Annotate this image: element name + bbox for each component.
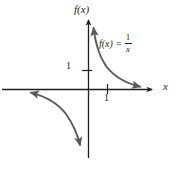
equation-equals-sign: = (116, 39, 122, 49)
y-axis-label: f(x) (74, 4, 89, 15)
x-axis-tick-label-1: 1 (104, 93, 109, 103)
graph-plot-area (0, 0, 176, 170)
fraction-denominator: x (125, 44, 131, 54)
y-axis-tick-label-1: 1 (66, 61, 71, 71)
figure-canvas: f(x) x 1 1 f(x) = 1 x (0, 0, 176, 170)
x-axis-label: x (163, 81, 168, 92)
equation-left-side: f(x) (99, 39, 113, 49)
equation-fraction: 1 x (125, 33, 132, 54)
equation-annotation: f(x) = 1 x (99, 33, 132, 54)
fraction-numerator: 1 (125, 33, 132, 43)
curve-branch-negative (31, 93, 80, 145)
